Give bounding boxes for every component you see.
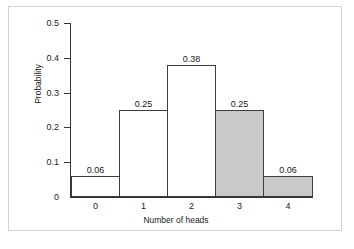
bar-category-1 [119,110,168,197]
bar-value-label-0: 0.06 [71,165,120,175]
x-tick-label-0: 0 [71,201,120,211]
y-tick-0: 0 [9,197,70,198]
y-tick-0.1: 0.1 [9,162,70,163]
plot-area: 0.06 0.25 0.38 0.25 0.06 [71,23,313,197]
y-axis-ticks: 0.5 0.4 0.3 0.2 0.1 0 [9,7,70,232]
y-tick-0.4: 0.4 [9,58,70,59]
x-tick-label-3: 3 [215,201,264,211]
bar-category-4 [263,176,313,197]
x-axis-line [70,197,313,198]
x-tick-label-2: 2 [167,201,216,211]
bar-category-0 [71,176,120,197]
bar-value-label-4: 0.06 [263,165,313,175]
y-tick-0.2: 0.2 [9,127,70,128]
bar-value-label-1: 0.25 [119,99,168,109]
bar-value-label-3: 0.25 [215,99,264,109]
x-tick-label-4: 4 [263,201,313,211]
y-tick-0.5: 0.5 [9,23,70,24]
y-tick-label: 0.2 [9,122,59,132]
y-tick-label: 0 [9,192,59,202]
figure-frame: Probability 0.5 0.4 0.3 0.2 0.1 0 [8,6,342,231]
x-tick-label-1: 1 [119,201,168,211]
bar-value-label-2: 0.38 [167,54,216,64]
y-tick-label: 0.3 [9,88,59,98]
y-tick-0.3: 0.3 [9,93,70,94]
x-axis-title: Number of heads [9,215,343,225]
bar-category-3 [215,110,264,197]
y-tick-label: 0.1 [9,157,59,167]
y-tick-label: 0.4 [9,53,59,63]
bar-category-2 [167,65,216,197]
y-tick-label: 0.5 [9,18,59,28]
